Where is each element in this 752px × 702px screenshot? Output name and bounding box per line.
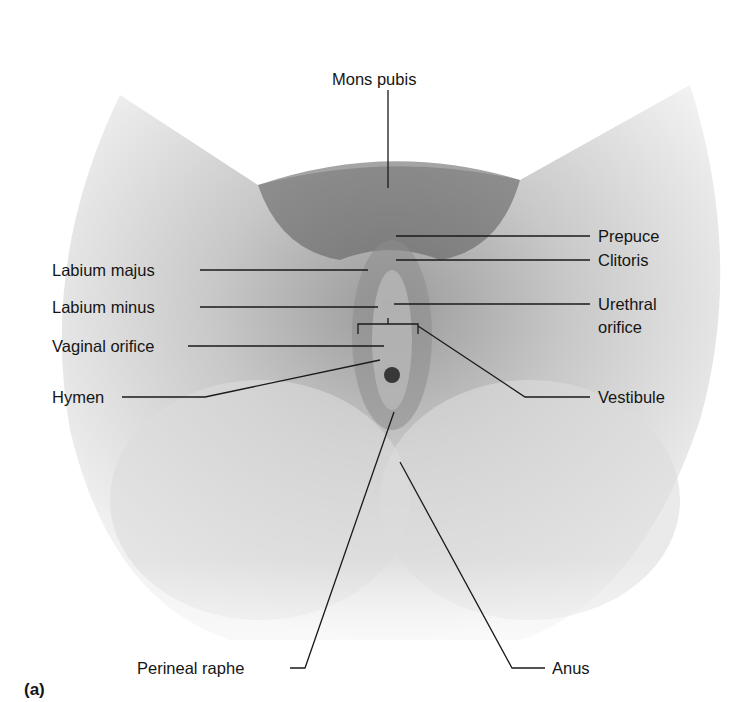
label-urethral-orifice-line1: Urethral — [598, 295, 657, 314]
label-mons-pubis: Mons pubis — [332, 70, 416, 89]
orifice-marker — [384, 367, 400, 383]
anatomy-figure: Mons pubis Prepuce Clitoris Labium majus… — [0, 0, 752, 702]
label-hymen: Hymen — [52, 388, 104, 407]
label-urethral-orifice-line2: orifice — [598, 318, 642, 337]
label-clitoris: Clitoris — [598, 251, 648, 270]
label-perineal-raphe: Perineal raphe — [137, 659, 244, 678]
label-vestibule: Vestibule — [598, 388, 665, 407]
panel-label: (a) — [24, 680, 45, 700]
label-prepuce: Prepuce — [598, 227, 659, 246]
bottom-fade — [0, 560, 752, 702]
inner-structure — [372, 270, 412, 410]
label-labium-majus: Labium majus — [52, 261, 155, 280]
label-vaginal-orifice: Vaginal orifice — [52, 337, 154, 356]
label-anus: Anus — [552, 659, 590, 678]
label-labium-minus: Labium minus — [52, 298, 155, 317]
